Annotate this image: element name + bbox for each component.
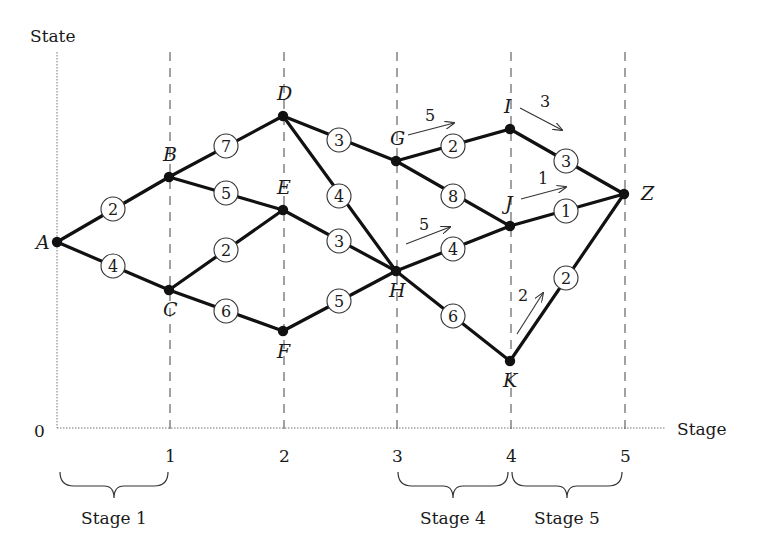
node-I (505, 124, 515, 134)
node-label-D: D (276, 82, 292, 104)
optimal-annotation: 5 (406, 215, 450, 244)
svg-text:4: 4 (334, 187, 344, 206)
svg-text:8: 8 (448, 187, 458, 206)
weight-badge-I-Z: 3 (554, 149, 578, 173)
svg-text:2: 2 (518, 286, 528, 305)
stage-brace-1: Stage 1 (60, 472, 168, 528)
weight-badge-H-J: 4 (441, 237, 465, 261)
svg-text:2: 2 (448, 137, 458, 156)
weight-badge-F-H: 5 (327, 289, 351, 313)
svg-text:7: 7 (221, 137, 231, 156)
stage-brace-3: Stage 5 (512, 472, 622, 528)
weight-badge-H-K: 6 (441, 304, 465, 328)
svg-text:Stage 1: Stage 1 (81, 508, 147, 528)
node-K (505, 356, 515, 366)
brace-icon (512, 472, 622, 498)
node-H (391, 266, 401, 276)
node-label-I: I (503, 95, 512, 117)
stage-brace-2: Stage 4 (398, 472, 508, 528)
node-A (52, 237, 62, 247)
svg-text:1: 1 (538, 169, 548, 188)
stage-tick-label: 5 (620, 446, 631, 466)
svg-text:Stage 5: Stage 5 (534, 508, 600, 528)
weight-badge-B-E: 5 (214, 181, 238, 205)
weight-badge-G-J: 8 (441, 184, 465, 208)
brace-icon (60, 472, 168, 498)
node-E (278, 205, 288, 215)
svg-text:4: 4 (108, 257, 118, 276)
svg-text:6: 6 (448, 307, 458, 326)
svg-text:5: 5 (334, 292, 344, 311)
svg-text:2: 2 (108, 200, 118, 219)
node-label-B: B (162, 143, 177, 165)
y-axis-label: State (30, 26, 76, 46)
node-label-K: K (502, 369, 519, 391)
node-label-J: J (501, 192, 514, 214)
arrow-icon (521, 187, 566, 199)
svg-text:3: 3 (334, 131, 344, 150)
svg-text:2: 2 (221, 241, 231, 260)
node-label-G: G (390, 127, 405, 149)
arrow-icon (520, 108, 562, 130)
weight-badge-D-G: 3 (327, 128, 351, 152)
optimal-annotation: 3 (520, 92, 562, 130)
optimal-annotation: 1 (521, 169, 566, 199)
weight-badge-E-H: 3 (327, 229, 351, 253)
svg-text:5: 5 (419, 215, 429, 234)
svg-text:5: 5 (221, 184, 231, 203)
weight-badge-G-I: 2 (441, 134, 465, 158)
svg-text:3: 3 (334, 232, 344, 251)
weight-badge-A-B: 2 (101, 197, 125, 221)
node-D (278, 111, 288, 121)
svg-text:3: 3 (561, 152, 571, 171)
weight-badge-C-E: 2 (214, 238, 238, 262)
node-label-A: A (34, 231, 50, 253)
dynamic-programming-network-diagram: State Stage 0 12345 24752634352846312 AB… (0, 0, 758, 556)
stage-tick-label: 2 (279, 446, 290, 466)
weight-badge-B-D: 7 (214, 134, 238, 158)
node-J (505, 221, 515, 231)
node-label-C: C (163, 298, 178, 320)
stage-lines (170, 52, 625, 436)
stage-tick-label: 3 (392, 446, 403, 466)
x-axis-label: Stage (677, 419, 727, 439)
svg-text:1: 1 (561, 202, 571, 221)
weight-badge-A-C: 4 (101, 254, 125, 278)
stage-braces: Stage 1Stage 4Stage 5 (60, 472, 622, 528)
node-label-H: H (388, 279, 406, 301)
axes: State Stage 0 (30, 26, 727, 441)
brace-icon (398, 472, 508, 498)
optimal-annotation: 2 (517, 286, 543, 334)
svg-text:3: 3 (540, 92, 550, 111)
svg-text:6: 6 (221, 302, 231, 321)
node-label-E: E (276, 176, 291, 198)
svg-text:5: 5 (425, 106, 435, 125)
node-C (164, 285, 174, 295)
origin-label: 0 (34, 421, 45, 441)
svg-text:Stage 4: Stage 4 (420, 508, 486, 528)
svg-text:4: 4 (448, 240, 458, 259)
node-Z (619, 189, 629, 199)
node-B (164, 172, 174, 182)
stage-tick-label: 1 (165, 446, 176, 466)
node-G (391, 156, 401, 166)
svg-text:2: 2 (561, 269, 571, 288)
node-F (278, 326, 288, 336)
weight-badge-J-Z: 1 (554, 199, 578, 223)
weight-badge-C-F: 6 (214, 299, 238, 323)
weight-badge-D-H: 4 (327, 184, 351, 208)
stage-tick-label: 4 (506, 446, 517, 466)
weight-badge-K-Z: 2 (554, 266, 578, 290)
node-label-Z: Z (640, 182, 655, 204)
node-label-F: F (276, 340, 291, 362)
optimal-annotation: 5 (408, 106, 454, 135)
stage-tick-labels: 12345 (165, 446, 631, 466)
